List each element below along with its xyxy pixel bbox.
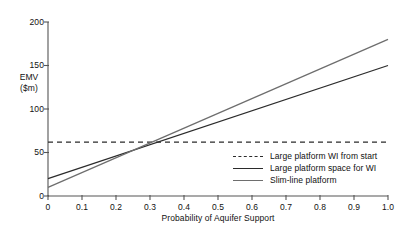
legend-item-large-platform-space-for-wi: Large platform space for WI	[233, 163, 405, 174]
legend-item-large-platform-wi-from-start: Large platform WI from start	[233, 151, 405, 162]
legend-label-2: Slim-line platform	[270, 175, 337, 186]
legend-swatch-dashed-icon	[233, 151, 263, 162]
plot-area	[0, 0, 409, 240]
legend-item-slim-line-platform: Slim-line platform	[233, 175, 405, 186]
emv-vs-aquifer-support-chart: 200 150 100 50 0 EMV ($m) 0 0.1 0.2 0.3 …	[0, 0, 409, 240]
chart-legend: Large platform WI from start Large platf…	[233, 151, 405, 187]
legend-label-1: Large platform space for WI	[270, 163, 376, 174]
legend-label-0: Large platform WI from start	[270, 151, 377, 162]
legend-swatch-solid-dark-icon	[233, 163, 263, 174]
legend-swatch-solid-light-icon	[233, 175, 263, 186]
